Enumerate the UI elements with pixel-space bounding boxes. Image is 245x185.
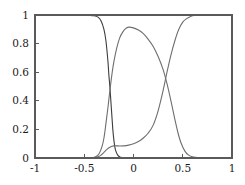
y-tick-label: 0.6 [12, 66, 29, 78]
y-tick-label: 1 [22, 9, 29, 21]
y-tick-label: 0.2 [12, 123, 29, 135]
y-tick-label: 0.4 [12, 94, 29, 106]
chart-figure: -1-0.500.51 00.20.40.60.81 [0, 0, 245, 185]
posterior-probability-plot: -1-0.500.51 00.20.40.60.81 [0, 0, 245, 185]
x-tick-label: -1 [30, 162, 40, 174]
x-tick-label: 1 [229, 162, 236, 174]
x-tick-label: -0.5 [74, 162, 94, 174]
x-tick-label: 0.5 [174, 162, 191, 174]
x-tick-label: 0 [130, 162, 137, 174]
y-tick-label: 0 [22, 152, 29, 164]
y-tick-label: 0.8 [12, 37, 29, 49]
